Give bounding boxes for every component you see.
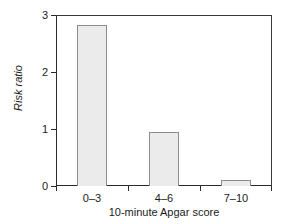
x-tick-mark-left-edge xyxy=(56,186,57,191)
bar-0-3 xyxy=(77,25,107,186)
x-tick-label-0-3: 0–3 xyxy=(62,192,122,204)
x-axis-title: 10-minute Apgar score xyxy=(56,206,272,218)
y-axis-title: Risk ratio xyxy=(12,58,24,118)
x-tick-mark-boundary-1 xyxy=(128,186,129,191)
bar-chart: 0 1 2 3 Risk ratio 0–3 4–6 7–10 10-minut… xyxy=(0,0,292,224)
bar-7-10 xyxy=(221,180,251,186)
y-tick-label-2: 2 xyxy=(30,67,48,78)
y-tick-label-0: 0 xyxy=(30,181,48,192)
bar-4-6 xyxy=(149,132,179,186)
bars-layer xyxy=(56,15,272,186)
x-tick-label-7-10: 7–10 xyxy=(206,192,266,204)
x-tick-label-4-6: 4–6 xyxy=(134,192,194,204)
y-tick-label-1: 1 xyxy=(30,124,48,135)
y-tick-label-3: 3 xyxy=(30,10,48,21)
x-tick-mark-boundary-2 xyxy=(200,186,201,191)
x-tick-mark-right-edge xyxy=(271,186,272,191)
